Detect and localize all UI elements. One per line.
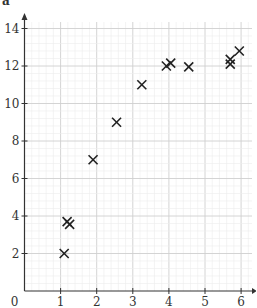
x-marker-icon (89, 155, 98, 164)
x-tick-label: 3 (129, 295, 137, 308)
x-marker-icon (137, 80, 146, 89)
x-tick-label: 6 (237, 295, 245, 308)
scatter-chart: 12345624681012140 a (0, 0, 256, 308)
x-tick-label: 4 (165, 295, 173, 308)
y-tick-label: 14 (4, 22, 20, 36)
x-tick-label: 2 (93, 295, 101, 308)
x-axis-arrow-icon (252, 288, 256, 294)
y-axis-arrow-icon (22, 13, 28, 20)
y-tick-label: 4 (12, 209, 20, 223)
x-marker-icon (226, 60, 235, 69)
x-tick-label: 1 (57, 295, 65, 308)
y-tick-label: 8 (12, 134, 20, 148)
tick-labels: 12345624681012140 (4, 22, 245, 308)
x-tick-label: 5 (201, 295, 209, 308)
y-tick-label: 2 (12, 247, 20, 261)
data-points (60, 47, 244, 259)
axes (22, 13, 257, 294)
x-marker-icon (184, 62, 193, 71)
grid (25, 22, 253, 291)
origin-label: 0 (11, 295, 19, 308)
y-tick-label: 10 (4, 97, 19, 111)
x-marker-icon (65, 220, 74, 229)
y-tick-label: 12 (4, 59, 19, 73)
x-marker-icon (112, 118, 121, 127)
y-tick-label: 6 (12, 172, 20, 186)
x-marker-icon (226, 55, 235, 64)
panel-label: a (2, 0, 10, 8)
